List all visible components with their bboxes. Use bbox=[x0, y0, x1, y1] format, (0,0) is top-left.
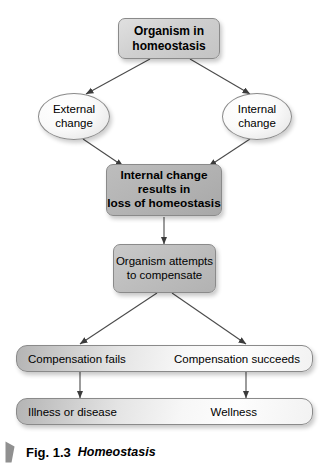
bar-label-illness-or-disease: Illness or disease bbox=[28, 399, 117, 424]
node-loss-line1: Internal change bbox=[107, 169, 220, 183]
node-internal-line2: change bbox=[238, 117, 276, 131]
node-internal-line1: Internal bbox=[238, 103, 276, 117]
bar-label-compensation-succeeds: Compensation succeeds bbox=[174, 346, 300, 371]
node-organism-line2: homeostasis bbox=[132, 39, 205, 53]
figure-caption: Fig. 1.3 Homeostasis bbox=[0, 436, 330, 468]
node-organism-attempts-to-compensate[interactable]: Organism attempts to compensate bbox=[113, 244, 216, 293]
edge-internal-to-loss bbox=[209, 139, 250, 166]
edge-compensate-to-succeeds bbox=[172, 293, 246, 344]
node-compensate-line1: Organism attempts bbox=[116, 255, 213, 269]
homeostasis-flowchart: Organism in homeostasis External change … bbox=[0, 0, 330, 468]
node-external-line2: change bbox=[53, 117, 95, 131]
figure-number: Fig. 1.3 bbox=[26, 445, 71, 460]
bar-final-results[interactable]: Illness or disease Wellness bbox=[16, 398, 313, 425]
edge-external-to-loss bbox=[83, 139, 123, 166]
node-internal-change[interactable]: Internal change bbox=[222, 93, 292, 140]
edge-start-to-internal bbox=[190, 59, 250, 94]
edge-compensate-to-fails bbox=[80, 293, 157, 344]
bar-label-wellness: Wellness bbox=[211, 399, 257, 424]
node-external-line1: External bbox=[53, 103, 95, 117]
node-organism-in-homeostasis[interactable]: Organism in homeostasis bbox=[118, 18, 220, 59]
corner-flag-icon bbox=[2, 440, 22, 464]
node-external-change[interactable]: External change bbox=[38, 93, 110, 140]
figure-title: Homeostasis bbox=[78, 445, 156, 459]
node-compensate-line2: to compensate bbox=[116, 269, 213, 283]
node-loss-of-homeostasis[interactable]: Internal change results in loss of homeo… bbox=[106, 164, 222, 216]
node-organism-line1: Organism in bbox=[132, 24, 205, 38]
edge-start-to-external bbox=[86, 59, 150, 94]
bar-label-compensation-fails: Compensation fails bbox=[28, 346, 126, 371]
node-loss-line3: loss of homeostasis bbox=[107, 197, 220, 211]
node-loss-line2: results in bbox=[107, 183, 220, 197]
bar-compensation-outcomes[interactable]: Compensation fails Compensation succeeds bbox=[16, 345, 313, 372]
